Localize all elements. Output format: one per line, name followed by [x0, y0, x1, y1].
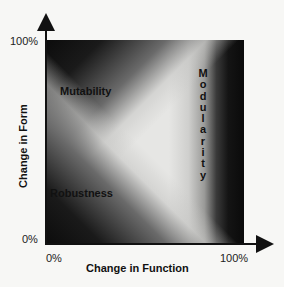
- modularity-letter: t: [198, 158, 208, 169]
- modularity-label: M o d u l a r i t y: [198, 68, 208, 181]
- plot-area: [46, 40, 244, 244]
- modularity-letter: o: [198, 79, 208, 90]
- modularity-letter: y: [198, 170, 208, 181]
- y-axis-line: [45, 28, 47, 245]
- robustness-label: Robustness: [50, 187, 113, 199]
- arrow-right-icon: [256, 235, 274, 253]
- y-tick-0: 0%: [22, 233, 38, 245]
- y-axis-label: Change in Form: [17, 101, 29, 191]
- x-axis-label: Change in Function: [86, 262, 189, 274]
- y-tick-100: 100%: [10, 35, 38, 47]
- mutability-label: Mutability: [60, 85, 111, 97]
- x-tick-0: 0%: [46, 252, 62, 264]
- x-axis-line: [45, 243, 260, 245]
- arrow-up-icon: [37, 13, 55, 31]
- x-tick-100: 100%: [220, 252, 248, 264]
- robustness-gradient: [46, 40, 244, 244]
